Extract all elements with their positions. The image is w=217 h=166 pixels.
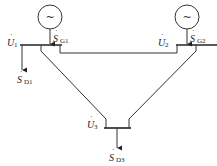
line-1-3: [41, 45, 106, 128]
label-u1: · U 1: [7, 30, 18, 49]
label-u3: · U 3: [87, 112, 98, 131]
svg-text:2: 2: [165, 41, 169, 49]
svg-text:1: 1: [14, 41, 18, 49]
svg-text:D1: D1: [24, 78, 33, 86]
label-sg1: · S G1: [53, 26, 69, 45]
label-sg2: · S G2: [190, 26, 206, 45]
svg-text:G2: G2: [197, 37, 206, 45]
generator-1: ~: [38, 5, 62, 44]
svg-text:S: S: [17, 74, 22, 85]
power-network-diagram: ~ ~ · S G1 · S G2 · U 1 · U 2: [0, 0, 217, 166]
generator-1-symbol: ~: [45, 11, 54, 24]
svg-text:S: S: [53, 33, 58, 44]
svg-text:G1: G1: [60, 37, 69, 45]
svg-text:S: S: [190, 33, 195, 44]
line-2-3: [129, 45, 196, 128]
svg-text:S: S: [109, 152, 114, 163]
svg-text:3: 3: [94, 123, 98, 131]
generator-2-symbol: ~: [182, 11, 191, 24]
svg-text:D3: D3: [116, 156, 125, 164]
label-u2: · U 2: [158, 30, 169, 49]
label-sd1: · S D1: [17, 67, 33, 86]
generator-2: ~: [175, 5, 199, 44]
